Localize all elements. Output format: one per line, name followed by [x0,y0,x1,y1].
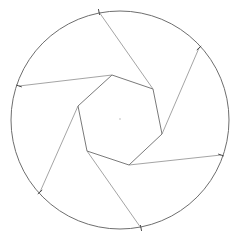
ray-line [19,75,112,86]
aperture-diagram [0,0,232,244]
tick-mark [98,9,99,15]
outer-circle [11,11,229,229]
ray-line [40,106,78,192]
tick-mark [140,225,141,231]
ray-line [99,12,153,89]
inner-hexagon [78,75,162,165]
rays-group [19,12,221,228]
ray-line [129,155,221,165]
ray-line [87,151,141,228]
tick-mark [197,46,201,50]
center-point [119,118,120,119]
ray-line [162,48,199,134]
